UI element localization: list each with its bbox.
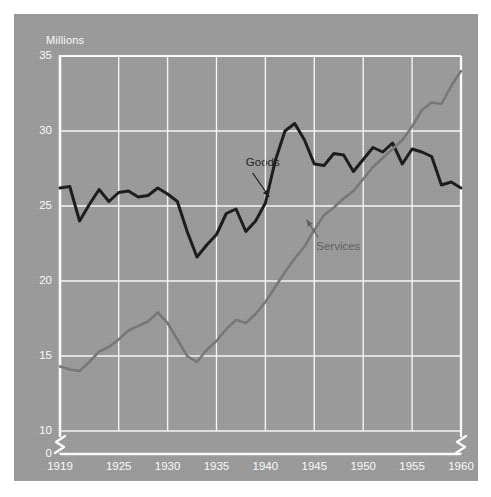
series-line-goods [60,124,461,258]
series-line-services [60,71,461,371]
horizontal-gridlines [60,56,461,431]
axis-lines [60,55,461,454]
annotation-arrow-goods [253,173,270,197]
vertical-gridlines [119,56,461,431]
axis-break-marks [55,436,466,453]
chart-screenshot: Millions 0101520253035 19191925193019351… [0,0,491,497]
chart-canvas [14,14,478,481]
chart-panel: Millions 0101520253035 19191925193019351… [14,14,478,481]
data-series-group [60,71,461,371]
